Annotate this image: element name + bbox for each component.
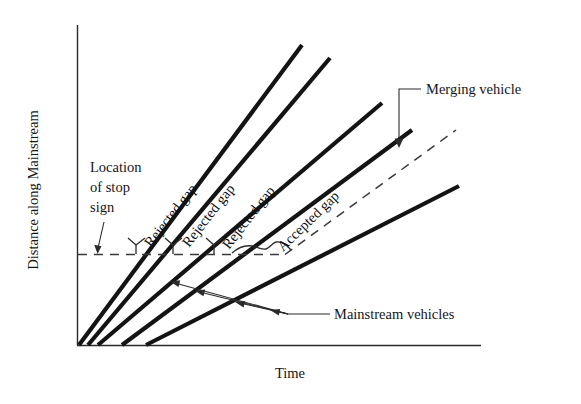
gap-brace-2-left xyxy=(165,238,173,245)
merging-vehicle-annotation: Merging vehicle xyxy=(395,81,522,148)
stop-sign-label-line2: of stop xyxy=(90,179,130,195)
merging-vehicle-label: Merging vehicle xyxy=(426,81,521,97)
stop-sign-arrow-head xyxy=(94,245,101,254)
stop-sign-annotation: Location of stop sign xyxy=(90,159,142,254)
gap-brace-3-left xyxy=(206,238,214,245)
gap-label-accepted-1: Accepted gap xyxy=(274,188,342,255)
stop-sign-label-line3: sign xyxy=(90,199,115,215)
gap-brace-1-left xyxy=(128,238,136,245)
y-axis-label: Distance along Mainstream xyxy=(25,110,41,270)
mainstream-arrow-head-4 xyxy=(270,309,280,316)
mainstream-arrow-head-3 xyxy=(235,301,245,308)
stop-sign-label-line1: Location xyxy=(90,159,142,175)
axis-label-group: Time Distance along Mainstream xyxy=(25,110,305,381)
figure-container: Rejected gap Rejected gap Rejected gap A… xyxy=(0,0,581,404)
stop-sign-arrow-shaft xyxy=(98,222,104,248)
trajectory-diagram: Rejected gap Rejected gap Rejected gap A… xyxy=(0,0,581,404)
x-axis-label: Time xyxy=(275,365,305,381)
mainstream-vehicles-label: Mainstream vehicles xyxy=(334,306,455,322)
dashed-merge-ramp xyxy=(285,130,456,255)
mainstream-vehicles-annotation: Mainstream vehicles xyxy=(170,280,455,322)
